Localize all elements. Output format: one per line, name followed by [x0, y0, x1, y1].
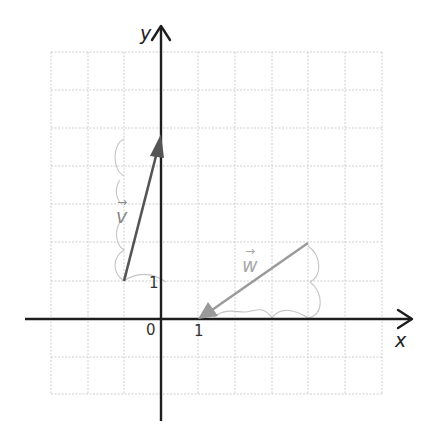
coordinate-plane	[0, 0, 442, 441]
vector-v	[124, 134, 164, 281]
vector-arrow-icon: →	[245, 245, 255, 257]
vector-v-label: → v	[116, 207, 127, 226]
w-component-braces	[214, 246, 320, 318]
y-tick-1-label: 1	[149, 276, 159, 291]
x-axis-label: x	[395, 331, 406, 350]
vector-arrow-icon: →	[117, 196, 127, 208]
origin-label: 0	[146, 323, 156, 338]
y-axis	[152, 26, 170, 421]
y-axis-label: y	[140, 24, 151, 43]
x-axis	[25, 310, 412, 328]
x-tick-1-label: 1	[194, 324, 204, 339]
vector-w-label: → w	[242, 256, 258, 275]
grid	[51, 52, 382, 394]
